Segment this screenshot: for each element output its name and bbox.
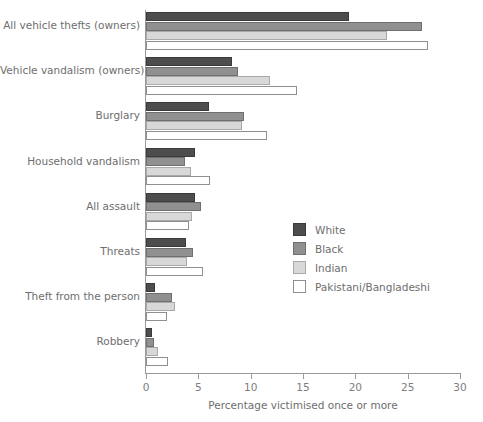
bar xyxy=(146,257,187,266)
legend-label: Pakistani/Bangladeshi xyxy=(315,281,430,293)
legend-swatch xyxy=(293,261,306,274)
bar xyxy=(146,121,242,130)
bar xyxy=(146,193,195,202)
category-label: All assault xyxy=(0,200,140,212)
bar xyxy=(146,221,189,230)
legend-label: Indian xyxy=(315,262,347,274)
x-tick xyxy=(146,374,147,379)
x-tick xyxy=(460,374,461,379)
bar xyxy=(146,238,186,247)
bar xyxy=(146,57,232,66)
legend-item[interactable]: Pakistani/Bangladeshi xyxy=(293,277,430,296)
x-tick xyxy=(408,374,409,379)
bar xyxy=(146,338,154,347)
bar xyxy=(146,86,297,95)
x-axis-title: Percentage victimised once or more xyxy=(146,399,460,411)
bar xyxy=(146,283,155,292)
legend-item[interactable]: White xyxy=(293,220,430,239)
bar xyxy=(146,102,209,111)
bar xyxy=(146,41,428,50)
x-tick-label: 30 xyxy=(453,381,466,393)
bar xyxy=(146,293,172,302)
legend-label: Black xyxy=(315,243,343,255)
bar xyxy=(146,67,238,76)
legend-item[interactable]: Black xyxy=(293,239,430,258)
bar xyxy=(146,357,168,366)
bar xyxy=(146,167,191,176)
bar xyxy=(146,157,185,166)
category-label: Threats xyxy=(0,245,140,257)
bar xyxy=(146,176,210,185)
bar xyxy=(146,267,203,276)
bar-group: Vehicle vandalism (owners) xyxy=(0,57,483,102)
x-tick xyxy=(303,374,304,379)
x-tick-label: 15 xyxy=(296,381,309,393)
bar xyxy=(146,112,244,121)
bar xyxy=(146,212,192,221)
bar xyxy=(146,248,193,257)
bar xyxy=(146,302,175,311)
bar xyxy=(146,347,158,356)
bar xyxy=(146,22,422,31)
x-tick-label: 20 xyxy=(349,381,362,393)
bar xyxy=(146,312,167,321)
bar xyxy=(146,202,201,211)
bar xyxy=(146,12,349,21)
legend: WhiteBlackIndianPakistani/Bangladeshi xyxy=(293,220,430,296)
category-label: Robbery xyxy=(0,335,140,347)
x-tick-label: 0 xyxy=(143,381,150,393)
bar-group: Burglary xyxy=(0,102,483,147)
x-tick xyxy=(251,374,252,379)
bar-group: All vehicle thefts (owners) xyxy=(0,12,483,57)
bar xyxy=(146,131,267,140)
x-tick-label: 25 xyxy=(401,381,414,393)
legend-swatch xyxy=(293,280,306,293)
category-label: Household vandalism xyxy=(0,155,140,167)
category-label: Vehicle vandalism (owners) xyxy=(0,64,140,76)
legend-label: White xyxy=(315,224,346,236)
x-tick-label: 5 xyxy=(195,381,202,393)
legend-swatch xyxy=(293,242,306,255)
category-label: All vehicle thefts (owners) xyxy=(0,19,140,31)
bar xyxy=(146,148,195,157)
x-tick xyxy=(355,374,356,379)
bar xyxy=(146,76,270,85)
bar-group: Household vandalism xyxy=(0,148,483,193)
category-label: Theft from the person xyxy=(0,290,140,302)
bar xyxy=(146,31,387,40)
x-tick xyxy=(198,374,199,379)
x-tick-label: 10 xyxy=(244,381,257,393)
legend-item[interactable]: Indian xyxy=(293,258,430,277)
bar-group: Robbery xyxy=(0,328,483,373)
bar xyxy=(146,328,152,337)
category-label: Burglary xyxy=(0,109,140,121)
legend-swatch xyxy=(293,223,306,236)
bar-chart: 051015202530 All vehicle thefts (owners)… xyxy=(0,0,483,422)
